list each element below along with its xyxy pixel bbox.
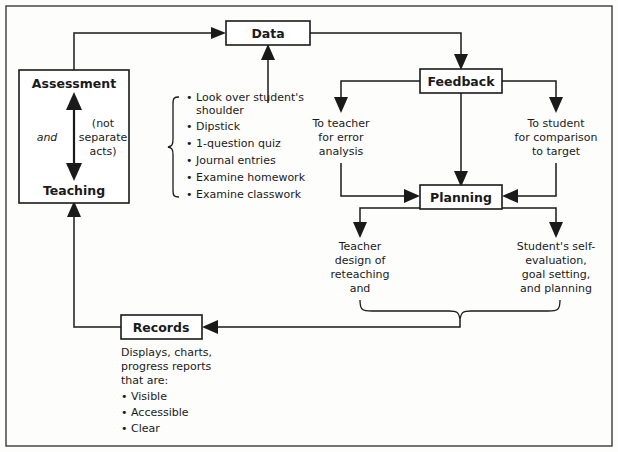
to-student-line-3: to target [532,145,581,158]
arrowhead-teacher-design [353,222,367,238]
and-connector-word: and [37,131,59,144]
connector-assessment-to-data [74,33,216,70]
data-label: Data [251,26,284,41]
arrowhead-student-eval [549,222,563,238]
connector-outcomes-to-records [215,320,460,327]
student-eval-line-2: evaluation, [525,254,586,267]
arrowhead-to-teacher [334,97,348,113]
methods-item-1: Look over student's [196,91,304,104]
not-separate-acts-line-3: acts) [89,145,116,158]
to-teacher-line-3: analysis [319,145,364,158]
records-bullet-3-marker: • [121,422,128,435]
records-caption-line-1: Displays, charts, [121,346,212,359]
feedback-label: Feedback [427,74,495,89]
arrowhead-to-student [549,97,563,113]
student-eval-line-4: and planning [520,282,592,295]
records-caption-line-3: that are: [121,374,168,387]
to-student-line-2: for comparison [515,131,598,144]
teacher-design-line-2: design of [335,254,387,267]
methods-item-3-bullet: • [186,137,193,150]
arrowhead-planning-right [502,189,518,203]
not-separate-acts-line-1: (not [92,117,115,130]
connector-feedback-to-teacher [341,81,420,100]
records-caption-line-2: progress reports [121,360,212,373]
flow-diagram: Assessment Teaching and (not separate ac… [0,0,618,452]
planning-label: Planning [430,190,492,205]
brace-methods [168,97,179,197]
methods-item-1-bullet: • [186,91,193,104]
arrowhead-planning-left [404,189,420,203]
records-bullet-2-marker: • [121,406,128,419]
records-bullet-3: Clear [131,422,160,435]
arrowhead-records-right [202,320,218,334]
teacher-design-line-4: and [350,282,371,295]
connector-planning-to-teacher-design [360,208,420,224]
arrowhead-feedback-top [454,54,468,70]
to-teacher-line-2: for error [318,131,364,144]
methods-item-5-bullet: • [186,171,193,184]
connector-data-to-feedback [310,33,461,60]
connector-planning-to-student-eval [502,208,556,224]
methods-item-4: Journal entries [195,154,276,167]
methods-item-6: Examine classwork [196,188,302,201]
diagram-page: Assessment Teaching and (not separate ac… [0,0,618,452]
methods-item-1-cont: shoulder [196,104,244,117]
teacher-design-line-1: Teacher [338,240,382,253]
methods-item-3: 1-question quiz [196,137,281,150]
connector-records-to-teaching [74,215,121,327]
teaching-label: Teaching [43,183,105,198]
arrowhead-data-left [211,27,226,39]
to-student-line-1: To student [526,117,585,130]
assessment-label: Assessment [32,76,116,91]
not-separate-acts-line-2: separate [79,131,128,144]
arrowhead-data-bottom [261,44,275,60]
records-bullet-2: Accessible [131,406,189,419]
records-bullet-1: Visible [131,390,167,403]
records-bullet-1-marker: • [121,390,128,403]
methods-item-6-bullet: • [186,188,193,201]
student-eval-line-1: Student's self- [517,240,595,253]
teacher-design-line-3: reteaching [331,268,390,281]
to-teacher-line-1: To teacher [311,117,370,130]
connector-feedback-to-student [502,81,556,100]
student-eval-line-3: goal setting, [522,268,591,281]
methods-item-2-bullet: • [186,120,193,133]
methods-item-2: Dipstick [196,120,241,133]
methods-item-5: Examine homework [196,171,306,184]
records-label: Records [133,320,190,335]
connector-teacher-to-planning [341,163,407,196]
brace-outcomes [360,300,560,320]
connector-student-to-planning [515,163,556,196]
methods-item-4-bullet: • [186,154,193,167]
